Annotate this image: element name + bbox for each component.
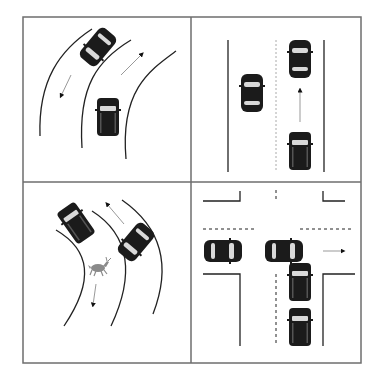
lane-markings	[203, 190, 351, 346]
arrow-up-left	[107, 204, 124, 224]
car-left-lane	[239, 74, 265, 112]
car-behind	[287, 308, 313, 346]
arrow-up-right	[121, 54, 142, 75]
panel-bottom-right	[203, 190, 355, 346]
car-ego	[287, 132, 313, 170]
arrow-down	[93, 284, 96, 305]
panel-top-right	[228, 40, 324, 172]
car-ahead	[287, 40, 313, 78]
arrow-down-left	[61, 75, 71, 96]
car-ego	[54, 200, 97, 246]
car-cross-center	[265, 238, 303, 264]
traffic-diagram	[0, 0, 377, 381]
car-ego-turning	[287, 263, 313, 301]
deer-icon	[88, 257, 111, 276]
car-cross-left	[204, 238, 242, 264]
panel-bottom-left	[54, 200, 162, 326]
panel-top-left	[40, 24, 176, 159]
car-oncoming	[76, 24, 120, 70]
curb-lines	[203, 191, 355, 346]
car-ego	[95, 98, 121, 136]
